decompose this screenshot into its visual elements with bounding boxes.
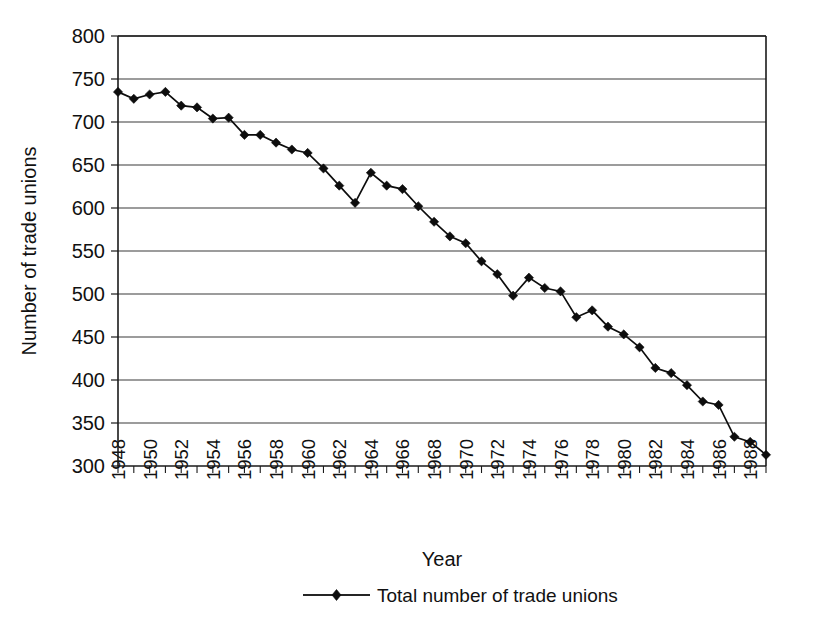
x-tick-label: 1980: [614, 439, 635, 480]
data-point-marker: [540, 283, 549, 292]
data-point-marker: [714, 400, 723, 409]
y-axis-tick-labels: 300350400450500550600650700750800: [72, 25, 105, 477]
data-point-marker: [113, 87, 122, 96]
line-chart: 300350400450500550600650700750800 194819…: [0, 0, 821, 632]
y-tick-label: 600: [72, 197, 105, 219]
legend-label-trade-unions: Total number of trade unions: [377, 585, 618, 606]
x-tick-label: 1950: [140, 439, 161, 480]
series-markers: [113, 87, 770, 459]
data-point-marker: [256, 130, 265, 139]
x-tick-label: 1954: [203, 439, 224, 480]
y-tick-label: 300: [72, 455, 105, 477]
x-tick-label: 1986: [709, 439, 730, 480]
y-tick-label: 400: [72, 369, 105, 391]
data-point-marker: [287, 145, 296, 154]
data-point-marker: [572, 313, 581, 322]
series-line-trade-unions: [118, 92, 766, 455]
data-point-marker: [730, 432, 739, 441]
y-tick-label: 800: [72, 25, 105, 47]
x-tick-label: 1958: [266, 439, 287, 480]
x-tick-label: 1972: [487, 439, 508, 480]
x-tick-label: 1978: [582, 439, 603, 480]
x-tick-label: 1960: [298, 439, 319, 480]
data-point-marker: [271, 138, 280, 147]
x-tick-label: 1964: [361, 439, 382, 480]
y-tick-label: 450: [72, 326, 105, 348]
chart-container: 300350400450500550600650700750800 194819…: [0, 0, 821, 632]
legend: Total number of trade unions: [303, 585, 618, 606]
data-point-marker: [556, 287, 565, 296]
data-point-marker: [129, 94, 138, 103]
x-tick-label: 1966: [392, 439, 413, 480]
x-axis-title: Year: [422, 548, 463, 570]
y-tick-label: 500: [72, 283, 105, 305]
x-tick-label: 1956: [234, 439, 255, 480]
y-axis-tick-marks: [111, 36, 118, 466]
x-axis-tick-labels: 1948195019521954195619581960196219641966…: [108, 439, 761, 480]
x-tick-label: 1968: [424, 439, 445, 480]
x-tick-label: 1984: [677, 439, 698, 480]
data-point-marker: [145, 90, 154, 99]
legend-diamond-icon: [332, 590, 341, 601]
x-tick-label: 1962: [329, 439, 350, 480]
y-tick-label: 350: [72, 412, 105, 434]
data-series-group: [113, 87, 770, 459]
x-tick-label: 1976: [551, 439, 572, 480]
x-tick-label: 1952: [171, 439, 192, 480]
y-tick-label: 700: [72, 111, 105, 133]
y-tick-label: 750: [72, 68, 105, 90]
x-tick-label: 1970: [456, 439, 477, 480]
x-tick-label: 1982: [645, 439, 666, 480]
x-tick-label: 1974: [519, 439, 540, 480]
y-tick-label: 650: [72, 154, 105, 176]
y-tick-label: 550: [72, 240, 105, 262]
y-axis-title: Number of trade unions: [18, 146, 40, 355]
